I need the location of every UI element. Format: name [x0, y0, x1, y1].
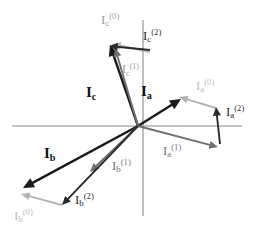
label-Ia-negative-sequence: Ia(2)	[226, 104, 244, 120]
label-Ia-negative-sequence-superscript: (2)	[234, 103, 244, 113]
phasor-Ic-positive-sequence	[114, 48, 138, 126]
label-Ib-zero-sequence: Ib(0)	[14, 208, 33, 224]
label-Ic-positive-sequence-superscript: (1)	[130, 62, 139, 71]
label-Ic-subscript: c	[92, 91, 97, 102]
label-Ib-negative-sequence: Ib(2)	[75, 192, 94, 208]
phasor-Ia-zero-sequence-shaft	[186, 99, 216, 108]
label-Ia-zero-sequence: Ia(0)	[196, 78, 214, 94]
phasor-Ic-negative-sequence-shaft	[117, 47, 150, 50]
label-Ia-subscript: a	[147, 90, 152, 101]
label-Ic: Ic	[86, 85, 96, 102]
vectors-group	[21, 42, 221, 205]
label-Ib-positive-sequence-superscript: (1)	[121, 157, 131, 167]
label-Ic-positive-sequence: Ic(1)	[122, 63, 139, 78]
label-Ic-zero-sequence: Ic(0)	[101, 12, 119, 28]
label-Ia-zero-sequence-superscript: (0)	[204, 77, 214, 87]
axes-group	[12, 20, 242, 216]
phasor-Ia-zero-sequence	[179, 96, 216, 108]
phasor-Ic-positive-sequence-arrowhead	[114, 48, 122, 58]
phasor-diagram: Ic(0)Ic(2)Ic(1)IcIaIa(0)Ia(2)Ia(1)IbIb(1…	[0, 0, 270, 235]
phasor-Ib-zero-sequence-arrowhead	[21, 192, 30, 200]
label-Ic-negative-sequence: Ic(2)	[143, 28, 161, 44]
phasor-Ib-zero-sequence-shaft	[28, 196, 62, 205]
label-Ib-subscript: b	[50, 152, 56, 163]
label-Ia: Ia	[141, 84, 152, 101]
label-Ic-zero-sequence-superscript: (0)	[109, 11, 119, 21]
label-Ib-zero-sequence-superscript: (0)	[23, 207, 33, 217]
label-Ia-positive-sequence: Ia(1)	[163, 143, 181, 159]
phasor-Ia	[138, 99, 181, 126]
label-Ib-positive-sequence: Ib(1)	[112, 158, 131, 174]
label-Ic-negative-sequence-superscript: (2)	[151, 27, 161, 37]
label-Ib: Ib	[44, 146, 56, 163]
phasor-Ib-zero-sequence	[21, 192, 62, 205]
phasor-Ia-positive-sequence-arrowhead	[209, 141, 218, 149]
phasor-Ia-negative-sequence-shaft	[217, 114, 220, 144]
label-Ib-negative-sequence-superscript: (2)	[84, 191, 94, 201]
label-Ia-positive-sequence-superscript: (1)	[171, 142, 181, 152]
